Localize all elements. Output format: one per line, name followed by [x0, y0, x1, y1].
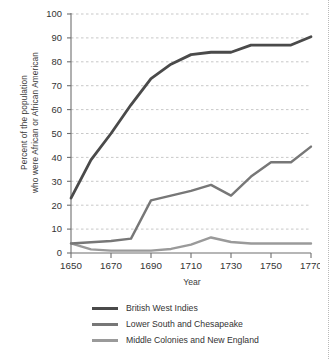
legend-item-lower-south-and-chesapeake: Lower South and Chesapeake — [92, 316, 322, 332]
series-line-middle-colonies-and-new-england — [71, 237, 311, 250]
y-axis-title-line1: Percent of the population — [19, 33, 30, 213]
legend-label: Middle Colonies and New England — [126, 335, 259, 345]
y-tick-label: 0 — [57, 247, 62, 258]
y-tick-label: 60 — [52, 104, 62, 115]
y-tick-marks — [67, 14, 71, 253]
x-tick-marks — [71, 253, 311, 258]
y-tick-label: 100 — [46, 8, 62, 19]
y-tick-label: 40 — [52, 152, 62, 163]
data-series-group — [71, 37, 311, 251]
chart-plot-area: 100 90 80 70 60 50 40 30 20 10 0 1650 16… — [0, 0, 320, 270]
y-tick-label: 30 — [52, 176, 62, 187]
legend-swatch-icon — [92, 307, 118, 310]
y-tick-labels: 100 90 80 70 60 50 40 30 20 10 0 — [46, 8, 62, 258]
y-tick-label: 70 — [52, 80, 62, 91]
legend-label: Lower South and Chesapeake — [126, 319, 243, 329]
legend-item-british-west-indies: British West Indies — [92, 300, 322, 316]
line-chart-svg: 100 90 80 70 60 50 40 30 20 10 0 1650 16… — [0, 0, 320, 270]
legend-item-middle-colonies-and-new-england: Middle Colonies and New England — [92, 332, 322, 348]
y-axis-title: Percent of the population who were Afric… — [19, 33, 40, 213]
figure-container: 100 90 80 70 60 50 40 30 20 10 0 1650 16… — [0, 0, 336, 359]
y-tick-label: 20 — [52, 200, 62, 211]
x-tick-label: 1750 — [260, 260, 282, 270]
y-tick-label: 80 — [52, 56, 62, 67]
legend-swatch-icon — [92, 339, 118, 342]
chart-legend: British West Indies Lower South and Ches… — [92, 300, 322, 348]
x-tick-label: 1730 — [220, 260, 242, 270]
legend-label: British West Indies — [126, 303, 198, 313]
page-edge-rule — [328, 0, 329, 359]
x-tick-labels: 1650 1670 1690 1710 1730 1750 1770 — [60, 260, 320, 270]
x-tick-label: 1690 — [140, 260, 162, 270]
y-axis-title-line2: who were African or African American — [29, 33, 40, 213]
y-tick-label: 90 — [52, 32, 62, 43]
legend-swatch-icon — [92, 323, 118, 326]
x-tick-label: 1650 — [60, 260, 82, 270]
x-axis-title: Year — [70, 277, 314, 287]
y-tick-label: 10 — [52, 223, 62, 234]
x-tick-label: 1670 — [100, 260, 122, 270]
series-line-british-west-indies — [71, 37, 311, 198]
x-tick-label: 1770 — [300, 260, 320, 270]
y-tick-label: 50 — [52, 128, 62, 139]
x-tick-label: 1710 — [180, 260, 202, 270]
